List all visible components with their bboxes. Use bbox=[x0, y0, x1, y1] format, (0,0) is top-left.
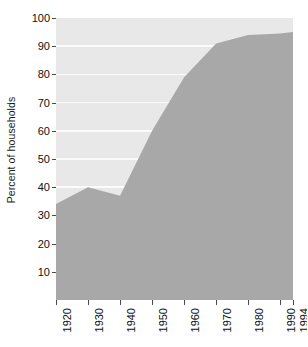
area-series-percent-of-households bbox=[56, 18, 293, 300]
x-tick-mark bbox=[152, 300, 153, 305]
y-tick-label: 20 bbox=[38, 238, 50, 250]
y-tick-label: 50 bbox=[38, 153, 50, 165]
y-tick-label: 90 bbox=[38, 40, 50, 52]
x-tick-mark bbox=[216, 300, 217, 305]
x-tick-label-text: 1920 bbox=[61, 308, 73, 332]
x-tick-label: 1980 bbox=[242, 306, 254, 346]
x-tick-label-text: 1960 bbox=[189, 308, 201, 332]
x-tick-label: 1920 bbox=[50, 306, 62, 346]
x-tick-label-text: 1980 bbox=[253, 308, 265, 332]
x-tick-label: 1940 bbox=[114, 306, 126, 346]
x-tick-mark bbox=[88, 300, 89, 305]
y-axis-title-text: Percent of households bbox=[5, 97, 17, 204]
y-tick-label: 60 bbox=[38, 125, 50, 137]
plot-area bbox=[56, 18, 293, 300]
x-tick-mark bbox=[120, 300, 121, 305]
x-tick-mark bbox=[280, 300, 281, 305]
y-tick-label: 80 bbox=[38, 68, 50, 80]
x-tick-mark bbox=[184, 300, 185, 305]
y-tick-label: 40 bbox=[38, 181, 50, 193]
area-fill-path bbox=[56, 32, 293, 300]
x-tick-label: 1950 bbox=[146, 306, 158, 346]
y-tick-label: 10 bbox=[38, 266, 50, 278]
x-tick-label: 1990 bbox=[274, 306, 286, 346]
x-tick-mark bbox=[293, 300, 294, 305]
x-tick-label-text: 1994 bbox=[298, 308, 308, 332]
x-tick-label-text: 1950 bbox=[157, 308, 169, 332]
y-tick-label: 30 bbox=[38, 209, 50, 221]
x-tick-mark bbox=[248, 300, 249, 305]
x-tick-label-text: 1970 bbox=[221, 308, 233, 332]
y-tick-label: 70 bbox=[38, 97, 50, 109]
x-tick-label: 1970 bbox=[210, 306, 222, 346]
chart-figure: Percent of households 100908070605040302… bbox=[0, 0, 307, 347]
y-axis-title: Percent of households bbox=[0, 0, 22, 300]
x-tick-label: 1930 bbox=[82, 306, 94, 346]
x-tick-label-text: 1930 bbox=[93, 308, 105, 332]
x-tick-label: 1994 bbox=[287, 306, 299, 346]
x-tick-mark bbox=[56, 300, 57, 305]
x-tick-label: 1960 bbox=[178, 306, 190, 346]
y-tick-label: 100 bbox=[32, 12, 50, 24]
x-tick-label-text: 1940 bbox=[125, 308, 137, 332]
